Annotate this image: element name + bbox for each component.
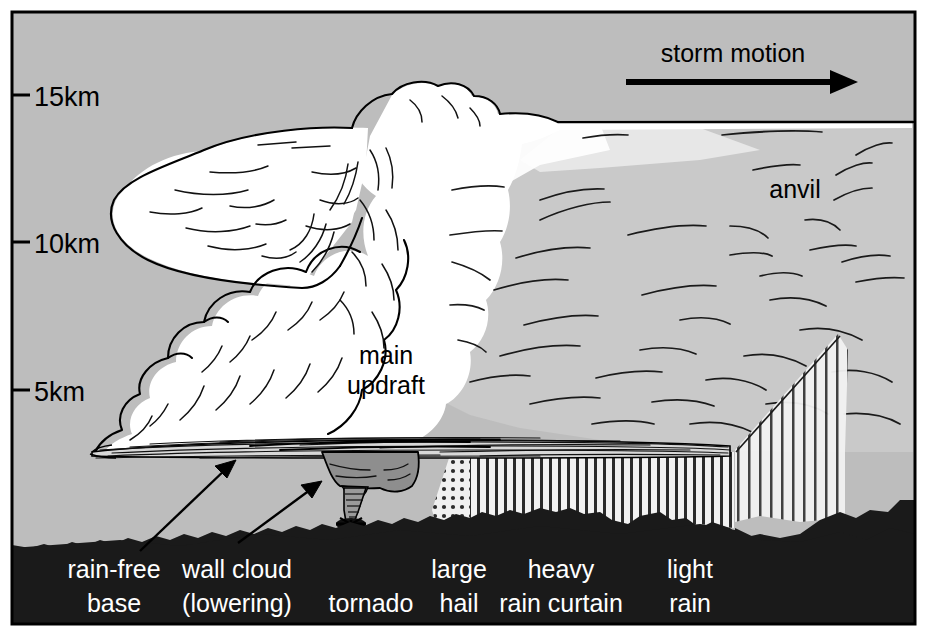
ground-label-light-rain-line1: light [667,555,713,583]
axis-label-10km: 10km [34,229,100,259]
axis-label-15km: 15km [34,82,100,112]
anvil-label: anvil [769,175,820,203]
ground-label-light-rain-line2: rain [669,589,711,617]
ground-label-heavy-rain-line2: rain curtain [499,589,623,617]
ground-label-wall-cloud-line2: (lowering) [182,589,292,617]
ground-label-rain-free-base-line1: rain-free [67,555,160,583]
supercell-diagram: 15km 10km 5km storm motion anvil main up… [0,0,927,636]
main-updraft-label-line1: main [359,341,413,369]
axis-label-5km: 5km [34,377,85,407]
main-updraft-label-line2: updraft [347,371,425,399]
ground-label-heavy-rain-line1: heavy [528,555,595,583]
ground-label-large-hail-line2: hail [440,589,479,617]
ground-label-wall-cloud-line1: wall cloud [181,555,292,583]
ground-label-rain-free-base-line2: base [87,589,141,617]
ground-label-tornado-line2: tornado [329,589,414,617]
storm-motion-label: storm motion [661,39,805,67]
ground-label-large-hail-line1: large [431,555,487,583]
